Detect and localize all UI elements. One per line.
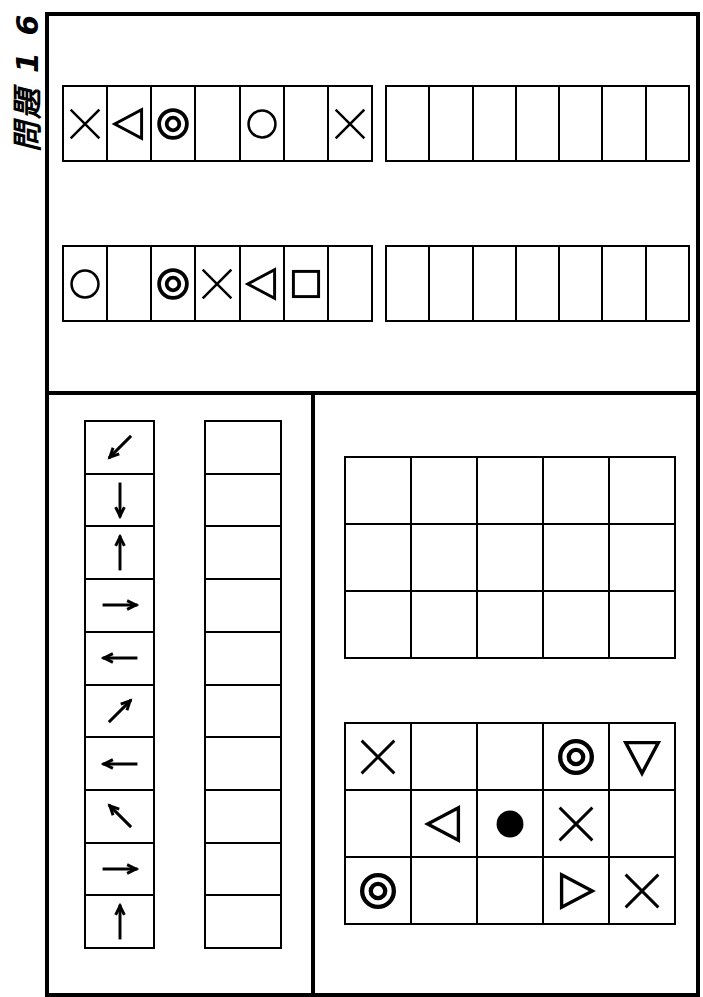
double-circle-icon bbox=[552, 733, 600, 781]
answer-cell[interactable] bbox=[610, 592, 674, 657]
sequence-row-1-symbols bbox=[62, 85, 373, 162]
symbol-cell-empty bbox=[478, 724, 542, 789]
symbol-cell bbox=[544, 724, 608, 789]
symbol-cell bbox=[346, 858, 410, 923]
answer-cell[interactable] bbox=[544, 525, 608, 590]
arrow-left-icon bbox=[93, 743, 147, 785]
matrix-answer-grid[interactable] bbox=[344, 456, 676, 659]
answer-cell[interactable] bbox=[206, 844, 280, 895]
symbol-cell bbox=[478, 791, 542, 856]
symbol-cell bbox=[86, 527, 153, 578]
panel-divider-horizontal bbox=[45, 391, 700, 395]
answer-cell[interactable] bbox=[387, 87, 428, 160]
answer-cell[interactable] bbox=[560, 87, 601, 160]
symbol-cell bbox=[610, 724, 674, 789]
symbol-cell bbox=[86, 844, 153, 895]
symbol-cell-empty bbox=[329, 247, 371, 320]
answer-cell[interactable] bbox=[647, 87, 688, 160]
square-icon bbox=[285, 263, 327, 305]
sequence-row-1-answer-boxes[interactable] bbox=[385, 85, 690, 162]
arrow-up-right-icon bbox=[93, 690, 147, 732]
symbol-cell-empty bbox=[478, 858, 542, 923]
arrow-up-icon bbox=[93, 901, 147, 943]
triangle-left-icon bbox=[241, 263, 283, 305]
answer-cell[interactable] bbox=[412, 458, 476, 523]
symbol-cell bbox=[86, 422, 153, 473]
answer-cell[interactable] bbox=[206, 633, 280, 684]
symbol-cell bbox=[64, 87, 106, 160]
cross-icon bbox=[552, 800, 600, 848]
symbol-cell bbox=[241, 247, 283, 320]
arrow-sequence-column bbox=[84, 420, 155, 949]
double-circle-icon bbox=[354, 867, 402, 915]
answer-cell[interactable] bbox=[517, 247, 558, 320]
answer-cell[interactable] bbox=[610, 458, 674, 523]
answer-cell[interactable] bbox=[603, 87, 644, 160]
answer-cell[interactable] bbox=[206, 791, 280, 842]
answer-cell[interactable] bbox=[206, 896, 280, 947]
symbol-cell bbox=[86, 475, 153, 526]
symbol-cell bbox=[196, 247, 238, 320]
symbol-cell bbox=[152, 247, 194, 320]
answer-cell[interactable] bbox=[474, 87, 515, 160]
arrow-right-icon bbox=[93, 848, 147, 890]
sequence-row-2-answer-boxes[interactable] bbox=[385, 245, 690, 322]
symbol-cell bbox=[64, 247, 106, 320]
answer-cell[interactable] bbox=[610, 525, 674, 590]
answer-cell[interactable] bbox=[387, 247, 428, 320]
answer-cell[interactable] bbox=[206, 475, 280, 526]
answer-cell[interactable] bbox=[478, 525, 542, 590]
answer-cell[interactable] bbox=[412, 592, 476, 657]
arrow-answer-column[interactable] bbox=[204, 420, 282, 949]
symbol-cell-empty bbox=[346, 791, 410, 856]
symbol-cell bbox=[86, 686, 153, 737]
triangle-down-icon bbox=[618, 733, 666, 781]
symbol-cell bbox=[86, 580, 153, 631]
answer-cell[interactable] bbox=[346, 592, 410, 657]
matrix-symbol-grid bbox=[344, 722, 676, 925]
symbol-cell-empty bbox=[196, 87, 238, 160]
arrow-up-icon bbox=[93, 532, 147, 574]
answer-cell[interactable] bbox=[206, 422, 280, 473]
symbol-cell bbox=[86, 791, 153, 842]
symbol-cell bbox=[108, 87, 150, 160]
cross-icon bbox=[196, 263, 238, 305]
answer-cell[interactable] bbox=[430, 87, 471, 160]
triangle-right-icon bbox=[552, 867, 600, 915]
answer-cell[interactable] bbox=[478, 592, 542, 657]
symbol-cell-empty bbox=[412, 858, 476, 923]
arrow-down-left-icon bbox=[93, 426, 147, 468]
triangle-left-icon bbox=[108, 103, 150, 145]
double-circle-icon bbox=[152, 103, 194, 145]
symbol-cell-empty bbox=[285, 87, 327, 160]
answer-cell[interactable] bbox=[603, 247, 644, 320]
symbol-cell bbox=[346, 724, 410, 789]
answer-cell[interactable] bbox=[206, 738, 280, 789]
symbol-cell-empty bbox=[412, 724, 476, 789]
answer-cell[interactable] bbox=[412, 525, 476, 590]
symbol-cell-empty bbox=[108, 247, 150, 320]
arrow-right-icon bbox=[93, 584, 147, 626]
answer-cell[interactable] bbox=[430, 247, 471, 320]
double-circle-icon bbox=[152, 263, 194, 305]
symbol-cell bbox=[544, 858, 608, 923]
symbol-cell bbox=[544, 791, 608, 856]
answer-cell[interactable] bbox=[206, 580, 280, 631]
answer-cell[interactable] bbox=[206, 527, 280, 578]
symbol-cell bbox=[329, 87, 371, 160]
answer-cell[interactable] bbox=[560, 247, 601, 320]
answer-cell[interactable] bbox=[544, 458, 608, 523]
answer-cell[interactable] bbox=[478, 458, 542, 523]
answer-cell[interactable] bbox=[544, 592, 608, 657]
answer-cell[interactable] bbox=[206, 686, 280, 737]
answer-cell[interactable] bbox=[346, 458, 410, 523]
symbol-cell bbox=[86, 633, 153, 684]
answer-cell[interactable] bbox=[474, 247, 515, 320]
answer-cell[interactable] bbox=[647, 247, 688, 320]
symbol-cell bbox=[86, 738, 153, 789]
answer-cell[interactable] bbox=[346, 525, 410, 590]
arrow-left-icon bbox=[93, 637, 147, 679]
symbol-cell bbox=[412, 791, 476, 856]
circle-icon bbox=[64, 263, 106, 305]
answer-cell[interactable] bbox=[517, 87, 558, 160]
